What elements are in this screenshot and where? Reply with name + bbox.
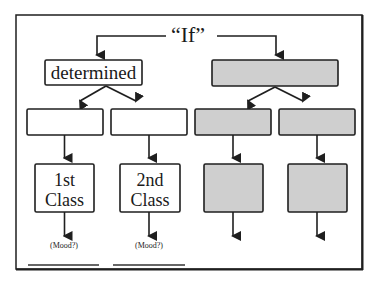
right-top-box <box>212 60 338 86</box>
right-mid-box-1 <box>195 109 271 135</box>
first-class-mood-note: (Mood?) <box>50 241 78 250</box>
right-bottom-box-1 <box>204 164 263 212</box>
first-class-line2: Class <box>45 190 84 210</box>
determined-label: determined <box>51 62 137 83</box>
right-mid-box-2 <box>279 109 355 135</box>
first-class-line1: 1st <box>54 170 75 190</box>
second-class-line1: 2nd <box>137 170 164 190</box>
second-class-mood-note: (Mood?) <box>135 241 163 250</box>
left-mid-box-2 <box>111 109 187 135</box>
outer-frame <box>16 15 362 269</box>
root-label: “If” <box>171 22 205 47</box>
second-class-line2: Class <box>130 190 169 210</box>
right-bottom-box-2 <box>288 164 347 212</box>
if-diagram: “If” determined 1st Class 2nd Class (Moo… <box>0 0 374 283</box>
left-mid-box-1 <box>27 109 103 135</box>
